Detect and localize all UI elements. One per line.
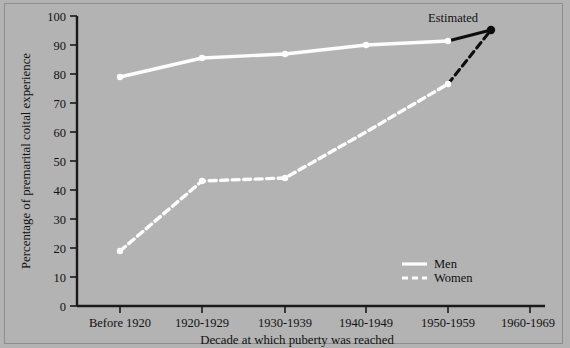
y-tick-label: 70 [54, 97, 67, 111]
y-tick-label: 10 [54, 271, 67, 285]
y-tick-label: 100 [47, 10, 66, 24]
x-tick-label-1940-1949: 1940-1949 [339, 316, 393, 330]
legend: Men Women [402, 257, 473, 285]
y-axis-title: Percentage of premarital coital experien… [19, 53, 33, 269]
y-tick-label: 20 [54, 242, 67, 256]
x-tick-label-1950-1959: 1950-1959 [421, 316, 475, 330]
line-chart: 100 90 80 70 60 50 40 30 20 10 0 Before … [0, 0, 570, 348]
estimated-annotation-label: Estimated [428, 11, 479, 25]
y-tick-label: 50 [54, 155, 67, 169]
x-tick-label-1960-1969: 1960-1969 [501, 316, 555, 330]
legend-label-men: Men [434, 257, 458, 271]
chart-figure: 100 90 80 70 60 50 40 30 20 10 0 Before … [0, 0, 570, 348]
x-tick-label-1920-1929: 1920-1929 [175, 316, 229, 330]
estimated-endpoint-marker [487, 26, 495, 34]
y-tick-label: 0 [60, 300, 66, 314]
y-tick-label: 40 [54, 184, 67, 198]
x-axis-title: Decade at which puberty was reached [200, 333, 394, 347]
series-line-women [120, 84, 448, 251]
series-markers-women [117, 81, 451, 254]
x-tick-label-1930-1939: 1930-1939 [258, 316, 312, 330]
legend-label-women: Women [434, 271, 473, 285]
series-line-men [120, 41, 448, 77]
x-tick-label-before-1920: Before 1920 [89, 316, 151, 330]
y-tick-label: 30 [54, 213, 67, 227]
y-tick-label: 60 [54, 126, 67, 140]
y-tick-label: 90 [54, 39, 67, 53]
y-tick-label: 80 [54, 68, 67, 82]
